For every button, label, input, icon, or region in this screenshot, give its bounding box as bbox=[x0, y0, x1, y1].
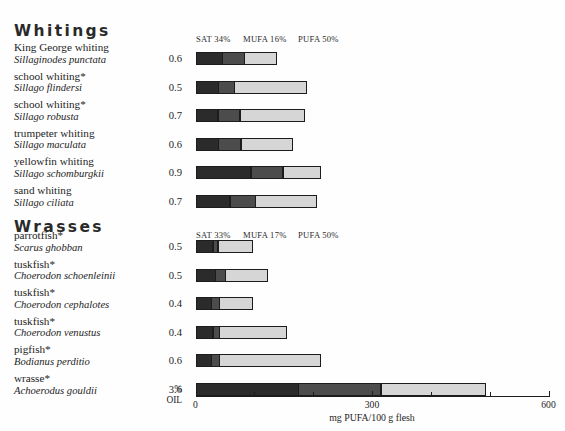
oil-percent-value: 0.5 bbox=[156, 82, 182, 93]
oil-percent-value: 0.5 bbox=[156, 241, 182, 252]
composition-mufa-label: MUFA 16% bbox=[243, 34, 298, 44]
species-label: sand whitingSillago ciliata bbox=[14, 184, 164, 208]
bar-segment-sat bbox=[196, 240, 214, 253]
bar-segment-sat bbox=[196, 138, 220, 151]
x-axis-tick bbox=[196, 391, 197, 397]
bar-segment-pufa bbox=[234, 81, 306, 94]
bar-segment-pufa bbox=[381, 383, 486, 396]
stacked-bar bbox=[196, 269, 268, 282]
bar-segment-sat bbox=[196, 326, 214, 339]
oil-axis-label-line: OIL bbox=[148, 395, 182, 406]
section-title-whitings: Whitings bbox=[14, 22, 111, 40]
bar-segment-pufa bbox=[219, 354, 321, 367]
composition-pufa-label: PUFA 50% bbox=[298, 34, 339, 44]
oil-percent-value: 0.7 bbox=[156, 110, 182, 121]
bar-segment-sat bbox=[196, 81, 220, 94]
species-scientific-name: Choerodon cephalotes bbox=[14, 299, 164, 311]
stacked-bar bbox=[196, 138, 294, 151]
species-common-name: pigfish* bbox=[14, 343, 164, 356]
bar-segment-mufa bbox=[251, 166, 283, 179]
bar-segment-sat bbox=[196, 166, 252, 179]
species-common-name: sand whiting bbox=[14, 184, 164, 197]
stacked-bar bbox=[196, 326, 288, 339]
stacked-bar bbox=[196, 354, 321, 367]
composition-sat-label: SAT 33% bbox=[196, 230, 243, 240]
species-label: tuskfish*Choerodon venustus bbox=[14, 315, 164, 339]
species-common-name: wrasse* bbox=[14, 372, 164, 385]
oil-percent-value: 0.6 bbox=[156, 355, 182, 366]
species-label: King George whitingSillaginodes punctata bbox=[14, 41, 164, 65]
x-axis-tick bbox=[372, 391, 373, 397]
bar-segment-pufa bbox=[283, 166, 322, 179]
species-scientific-name: Bodianus perditio bbox=[14, 356, 164, 368]
species-label: school whiting*Sillago robusta bbox=[14, 98, 164, 122]
stacked-bar bbox=[196, 240, 254, 253]
species-scientific-name: Sillago robusta bbox=[14, 111, 164, 123]
composition-pufa-label: PUFA 50% bbox=[298, 230, 339, 240]
bar-segment-pufa bbox=[225, 269, 267, 282]
species-label: pigfish*Bodianus perditio bbox=[14, 343, 164, 367]
species-common-name: King George whiting bbox=[14, 41, 164, 54]
species-scientific-name: Scarus ghobban bbox=[14, 242, 164, 254]
x-axis-tick bbox=[490, 392, 491, 396]
x-axis-caption: mg PUFA/100 g flesh bbox=[272, 412, 472, 423]
oil-percent-value: 0.7 bbox=[156, 196, 182, 207]
x-axis-tick-label: 600 bbox=[529, 399, 565, 410]
bar-segment-sat bbox=[196, 52, 223, 65]
species-common-name: tuskfish* bbox=[14, 286, 164, 299]
stacked-bar bbox=[196, 52, 278, 65]
stacked-bar bbox=[196, 383, 487, 396]
bar-segment-pufa bbox=[241, 138, 293, 151]
bar-segment-mufa bbox=[230, 195, 256, 208]
species-scientific-name: Choerodon schoenleinii bbox=[14, 270, 164, 282]
x-axis-tick bbox=[549, 391, 550, 397]
species-label: trumpeter whitingSillago maculata bbox=[14, 127, 164, 151]
species-common-name: tuskfish* bbox=[14, 315, 164, 328]
stacked-bar bbox=[196, 109, 305, 122]
bar-segment-sat bbox=[196, 269, 217, 282]
x-axis-tick-label: 300 bbox=[352, 399, 392, 410]
bar-segment-pufa bbox=[240, 109, 305, 122]
species-label: school whiting*Sillago flindersi bbox=[14, 70, 164, 94]
oil-percent-value: 0.5 bbox=[156, 270, 182, 281]
bar-segment-pufa bbox=[219, 326, 287, 339]
oil-percent-value: 0.4 bbox=[156, 327, 182, 338]
x-axis-tick bbox=[313, 392, 314, 396]
composition-sat-label: SAT 34% bbox=[196, 34, 243, 44]
bar-segment-sat bbox=[196, 109, 219, 122]
x-axis-tick bbox=[431, 392, 432, 396]
oil-percent-value: 0.6 bbox=[156, 53, 182, 64]
oil-axis-label-line: % bbox=[148, 384, 182, 395]
bar-segment-mufa bbox=[218, 138, 241, 151]
species-label: wrasse*Achoerodus gouldii bbox=[14, 372, 164, 396]
composition-header-whitings: SAT 34%MUFA 16%PUFA 50% bbox=[196, 34, 339, 44]
stacked-bar bbox=[196, 81, 307, 94]
fish-lipid-composition-chart: WhitingsSAT 34%MUFA 16%PUFA 50%King Geor… bbox=[0, 0, 565, 431]
bar-segment-pufa bbox=[218, 240, 253, 253]
species-common-name: parrotfish* bbox=[14, 229, 164, 242]
species-scientific-name: Choerodon venustus bbox=[14, 327, 164, 339]
species-label: tuskfish*Choerodon cephalotes bbox=[14, 286, 164, 310]
composition-mufa-label: MUFA 17% bbox=[243, 230, 298, 240]
species-label: yellowfin whitingSillago schomburgkii bbox=[14, 155, 164, 179]
species-label: tuskfish*Choerodon schoenleinii bbox=[14, 258, 164, 282]
stacked-bar bbox=[196, 297, 254, 310]
species-scientific-name: Sillago schomburgkii bbox=[14, 168, 164, 180]
oil-percent-value: 0.6 bbox=[156, 139, 182, 150]
species-scientific-name: Sillago ciliata bbox=[14, 197, 164, 209]
bar-segment-pufa bbox=[219, 297, 253, 310]
stacked-bar bbox=[196, 166, 322, 179]
species-scientific-name: Sillaginodes punctata bbox=[14, 54, 164, 66]
bar-segment-pufa bbox=[255, 195, 317, 208]
bar-segment-mufa bbox=[218, 109, 240, 122]
species-common-name: school whiting* bbox=[14, 98, 164, 111]
species-label: parrotfish*Scarus ghobban bbox=[14, 229, 164, 253]
oil-percent-value: 0.4 bbox=[156, 298, 182, 309]
species-scientific-name: Sillago flindersi bbox=[14, 82, 164, 94]
stacked-bar bbox=[196, 195, 318, 208]
species-common-name: school whiting* bbox=[14, 70, 164, 83]
oil-axis-label: %OIL bbox=[148, 384, 182, 406]
species-common-name: tuskfish* bbox=[14, 258, 164, 271]
bar-segment-mufa bbox=[298, 383, 381, 396]
species-scientific-name: Achoerodus gouldii bbox=[14, 385, 164, 397]
